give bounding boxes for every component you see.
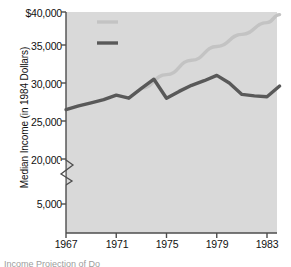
plot-area-background <box>66 12 277 233</box>
chart-figure: Median Income (in 1984 Dollars) $40,000 … <box>0 0 291 267</box>
plot-canvas <box>0 0 291 267</box>
plot-background-group <box>66 12 277 233</box>
